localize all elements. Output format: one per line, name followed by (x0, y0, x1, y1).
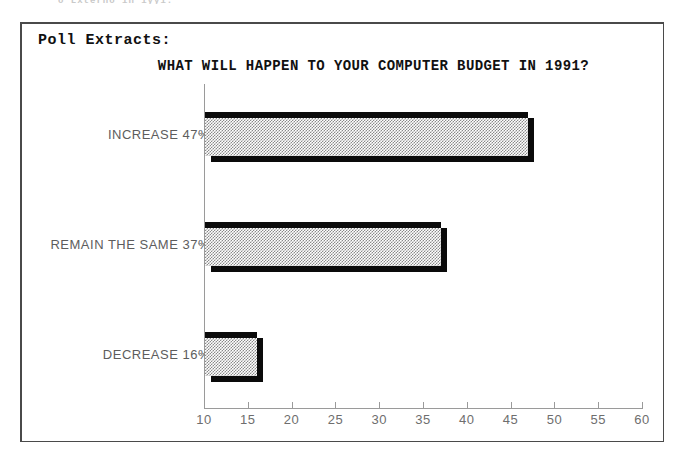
x-tick-label: 20 (277, 412, 307, 427)
y-tick-mark (198, 353, 205, 354)
x-tick-label: 25 (320, 412, 350, 427)
bar-body (205, 222, 441, 266)
x-tick-mark (554, 402, 555, 409)
x-tick-label: 35 (408, 412, 438, 427)
x-tick-label: 55 (583, 412, 613, 427)
x-tick-mark (379, 402, 380, 409)
bar-row: DECREASE 16% (22, 326, 666, 382)
x-tick-label: 15 (233, 412, 263, 427)
x-tick-label: 10 (189, 412, 219, 427)
x-tick-label: 60 (627, 412, 657, 427)
x-tick-mark (204, 402, 205, 409)
x-tick-label: 30 (364, 412, 394, 427)
scan-artifact-text: o Lxterno in iyyi. (58, 0, 288, 4)
bar-body (205, 112, 528, 156)
x-tick-mark (511, 402, 512, 409)
bar-decrease (205, 332, 257, 376)
x-tick-label: 45 (496, 412, 526, 427)
x-tick-label: 40 (452, 412, 482, 427)
bar-label: DECREASE 16% (103, 347, 210, 362)
bar-label: INCREASE 47% (108, 127, 210, 142)
poll-extracts-panel: Poll Extracts: WHAT WILL HAPPEN TO YOUR … (20, 22, 664, 442)
bar-row: INCREASE 47% (22, 106, 666, 162)
x-tick-mark (467, 402, 468, 409)
bar-label: REMAIN THE SAME 37% (50, 237, 210, 252)
x-tick-mark (423, 402, 424, 409)
y-tick-mark (198, 133, 205, 134)
y-tick-mark (198, 243, 205, 244)
x-tick-mark (292, 402, 293, 409)
bar-body (205, 332, 257, 376)
bar-row: REMAIN THE SAME 37% (22, 216, 666, 272)
x-tick-mark (248, 402, 249, 409)
x-tick-mark (642, 402, 643, 409)
bar-increase (205, 112, 528, 156)
bar-remain-the-same (205, 222, 441, 266)
bar-chart-plot-area: INCREASE 47% REMAIN THE SAME 37% DECREAS… (22, 24, 666, 444)
x-tick-mark (335, 402, 336, 409)
x-tick-label: 50 (539, 412, 569, 427)
x-tick-mark (598, 402, 599, 409)
